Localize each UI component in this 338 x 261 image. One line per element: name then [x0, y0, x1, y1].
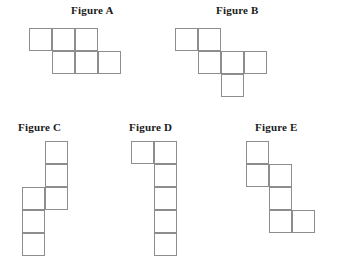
grid-cell: [45, 164, 68, 187]
grid-cell: [45, 141, 68, 164]
grid-cell: [98, 51, 121, 74]
grid-cell: [292, 210, 315, 233]
grid-cell: [22, 210, 45, 233]
grid-cell: [75, 51, 98, 74]
grid-cell: [246, 141, 269, 164]
figure-b-label: Figure B: [216, 4, 259, 16]
grid-cell: [244, 51, 267, 74]
grid-cell: [269, 187, 292, 210]
figure-a-label: Figure A: [71, 4, 114, 16]
figure-d-label: Figure D: [129, 121, 172, 133]
grid-cell: [75, 28, 98, 51]
grid-cell: [198, 51, 221, 74]
figures-sheet: Figure A Figure B Figure C Figure D Figu…: [0, 0, 338, 261]
grid-cell: [221, 74, 244, 97]
grid-cell: [154, 233, 177, 256]
grid-cell: [45, 187, 68, 210]
figure-e-label: Figure E: [255, 121, 298, 133]
grid-cell: [52, 28, 75, 51]
grid-cell: [131, 141, 154, 164]
grid-cell: [154, 210, 177, 233]
grid-cell: [246, 164, 269, 187]
grid-cell: [52, 51, 75, 74]
grid-cell: [154, 141, 177, 164]
grid-cell: [269, 164, 292, 187]
figure-c-label: Figure C: [18, 121, 61, 133]
grid-cell: [198, 28, 221, 51]
grid-cell: [154, 164, 177, 187]
grid-cell: [175, 28, 198, 51]
grid-cell: [221, 51, 244, 74]
grid-cell: [269, 210, 292, 233]
grid-cell: [154, 187, 177, 210]
grid-cell: [22, 187, 45, 210]
grid-cell: [22, 233, 45, 256]
grid-cell: [29, 28, 52, 51]
